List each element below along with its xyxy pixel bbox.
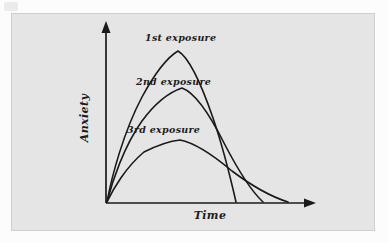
figure-plate <box>12 14 375 231</box>
habituation-curve-figure: 1st exposure 2nd exposure 3rd exposure A… <box>0 0 388 243</box>
x-axis-title: Time <box>194 209 227 222</box>
scan-smudge <box>4 2 18 11</box>
y-axis-title: Anxiety <box>78 93 91 144</box>
anxiety-over-time-chart: 1st exposure 2nd exposure 3rd exposure A… <box>0 0 388 243</box>
curve-label-3rd-exposure: 3rd exposure <box>127 124 200 135</box>
curve-label-1st-exposure: 1st exposure <box>145 32 216 43</box>
curve-label-2nd-exposure: 2nd exposure <box>135 76 211 87</box>
